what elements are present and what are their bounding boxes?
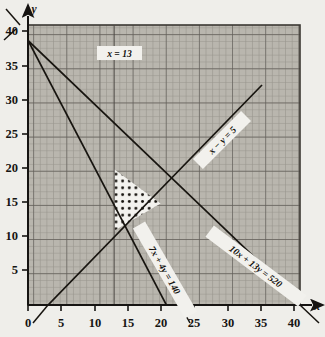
y-tick-label: 5 — [12, 263, 18, 277]
x-tick-label: 40 — [288, 316, 301, 330]
x-tick-label: 25 — [188, 316, 201, 330]
y-tick-label: 20 — [6, 161, 19, 175]
annotation-x-equals-13-text: x = 13 — [106, 48, 132, 59]
linear-programming-chart: 0 5 10 15 20 25 30 35 40 5 10 15 20 25 3… — [0, 0, 325, 337]
y-axis-label: y — [29, 3, 37, 16]
y-tick-label: 15 — [6, 195, 19, 209]
x-tick-label: 20 — [155, 316, 168, 330]
y-tick-label: 40 — [6, 24, 19, 38]
x-tick-label: 30 — [222, 316, 235, 330]
x-axis-label: x — [313, 300, 320, 312]
annotation-x-equals-13: x = 13 — [97, 46, 142, 60]
y-tick-label: 10 — [6, 229, 19, 243]
x-tick-label: 10 — [89, 316, 102, 330]
x-tick-label: 15 — [122, 316, 135, 330]
y-tick-label: 35 — [6, 59, 19, 73]
x-tick-label: 35 — [255, 316, 268, 330]
x-tick-label: 5 — [58, 316, 64, 330]
chart-svg: 0 5 10 15 20 25 30 35 40 5 10 15 20 25 3… — [0, 0, 325, 337]
y-tick-label: 25 — [6, 127, 19, 141]
x-tick-label: 0 — [25, 316, 31, 330]
y-tick-label: 30 — [6, 93, 19, 107]
